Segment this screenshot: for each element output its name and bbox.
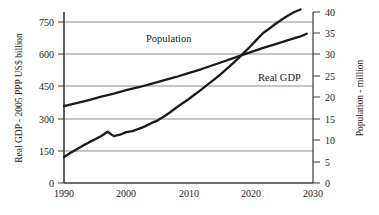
x-tick-label-2010: 2010 — [179, 188, 199, 199]
x-tick-label-1990: 1990 — [54, 188, 74, 199]
left-axis-title: Real GDP - 2005 PPP US$ billion — [14, 33, 24, 163]
right-tick-label-5: 5 — [325, 157, 330, 168]
left-tick-label-600: 600 — [39, 49, 54, 60]
left-tick-label-300: 300 — [39, 114, 54, 125]
x-tick-label-2020: 2020 — [241, 188, 261, 199]
population-series-label: Population — [146, 33, 192, 44]
real-gdp-series-label: Real GDP — [258, 72, 301, 83]
right-tick-label-40: 40 — [325, 7, 335, 18]
right-tick-label-20: 20 — [325, 92, 335, 103]
left-tick-label-150: 150 — [39, 146, 54, 157]
left-tick-label-750: 750 — [39, 17, 54, 28]
x-tick-label-2000: 2000 — [116, 188, 136, 199]
right-tick-label-10: 10 — [325, 135, 335, 146]
right-tick-label-30: 30 — [325, 49, 335, 60]
right-axis-title: Population - million — [355, 59, 365, 136]
right-tick-label-15: 15 — [325, 114, 335, 125]
x-tick-label-2030: 2030 — [303, 188, 323, 199]
right-tick-label-25: 25 — [325, 71, 335, 82]
left-tick-label-450: 450 — [39, 81, 54, 92]
chart-figure: 750 600 450 300 150 0 40 35 30 25 20 15 … — [0, 0, 379, 215]
right-tick-label-0: 0 — [325, 178, 330, 189]
right-tick-label-35: 35 — [325, 28, 335, 39]
chart-canvas: 750 600 450 300 150 0 40 35 30 25 20 15 … — [0, 0, 379, 215]
